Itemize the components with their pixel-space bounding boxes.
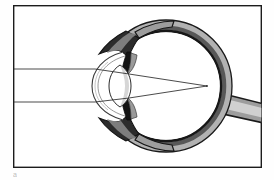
focal-point bbox=[206, 85, 208, 87]
eye-cross-section-diagram bbox=[0, 0, 274, 180]
eye-diagram-figure: a bbox=[0, 0, 274, 180]
caption-fragment: a bbox=[13, 170, 17, 179]
